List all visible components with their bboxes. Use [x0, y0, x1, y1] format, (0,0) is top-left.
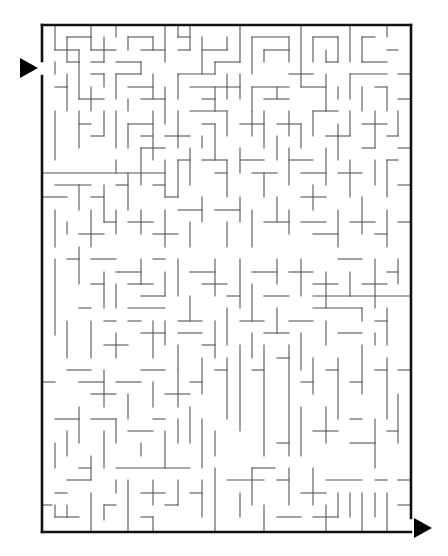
maze-board	[0, 0, 448, 556]
maze-walls	[42, 25, 411, 532]
start-arrow-icon	[20, 58, 38, 78]
maze-border	[42, 25, 411, 532]
finish-arrow-icon	[414, 518, 432, 538]
